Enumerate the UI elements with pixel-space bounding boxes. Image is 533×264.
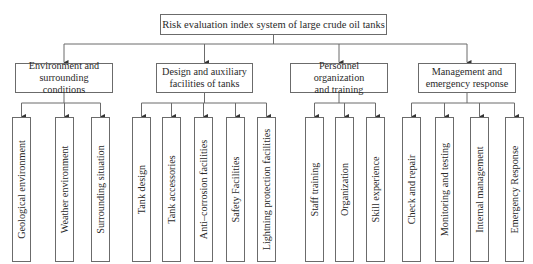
leaf-label: Tank design <box>136 165 147 214</box>
category-label-line: Management and <box>432 66 502 77</box>
leaf-weather-environment: Weather environment <box>55 117 74 262</box>
category-label-line: Design and auxiliary <box>162 66 247 77</box>
category-environment: Environment andsurrounding conditions <box>15 63 113 93</box>
leaf-label: Monitoring and testing <box>439 143 450 236</box>
category-label-line: surrounding conditions <box>39 72 88 95</box>
leaf-label: Staff training <box>309 163 320 217</box>
leaf-label: Weather environment <box>59 146 70 234</box>
leaf-check-and-repair: Check and repair <box>402 117 421 262</box>
category-label-line: Personnel organization <box>314 60 365 83</box>
leaf-safety-facilities: Safety Facilities <box>226 117 245 262</box>
leaf-lightning-protection-facilities: Lightning protection facilities <box>257 117 276 262</box>
category-management: Management andemergency response <box>418 63 516 93</box>
leaf-label: Anti–corrosion facilities <box>198 140 209 239</box>
leaf-internal-management: Internal management <box>470 117 489 262</box>
leaf-organization: Organization <box>335 117 354 262</box>
category-label-line: and training <box>315 84 364 95</box>
leaf-tank-accessories: Tank accessories <box>162 117 181 262</box>
leaf-label: Lightning protection facilities <box>261 129 272 251</box>
category-design-facilities: Design and auxiliaryfacilities of tanks <box>156 63 253 93</box>
leaf-label: Emergency Response <box>509 146 520 234</box>
leaf-label: Check and repair <box>406 155 417 225</box>
leaf-label: Safety Facilities <box>230 157 241 223</box>
category-label-line: facilities of tanks <box>169 78 239 89</box>
leaf-geological-environment: Geological environment <box>12 117 31 262</box>
leaf-surrounding-situation: Surrounding situation <box>91 117 110 262</box>
leaf-staff-training: Staff training <box>305 117 324 262</box>
leaf-anti-corrosion-facilities: Anti–corrosion facilities <box>194 117 213 262</box>
leaf-skill-experience: Skill experience <box>366 117 385 262</box>
category-label-line: emergency response <box>426 78 509 89</box>
category-label-line: Environment and <box>29 60 99 71</box>
leaf-label: Skill experience <box>370 157 381 223</box>
leaf-label: Internal management <box>474 146 485 232</box>
leaf-emergency-response: Emergency Response <box>505 117 524 262</box>
root-label: Risk evaluation index system of large cr… <box>162 19 385 30</box>
leaf-label: Organization <box>339 163 350 216</box>
leaf-monitoring-and-testing: Monitoring and testing <box>435 117 454 262</box>
leaf-tank-design: Tank design <box>132 117 151 262</box>
leaf-label: Tank accessories <box>166 155 177 224</box>
category-personnel: Personnel organizationand training <box>290 63 388 93</box>
leaf-label: Surrounding situation <box>95 145 106 234</box>
leaf-label: Geological environment <box>16 140 27 239</box>
root-node: Risk evaluation index system of large cr… <box>160 14 387 35</box>
